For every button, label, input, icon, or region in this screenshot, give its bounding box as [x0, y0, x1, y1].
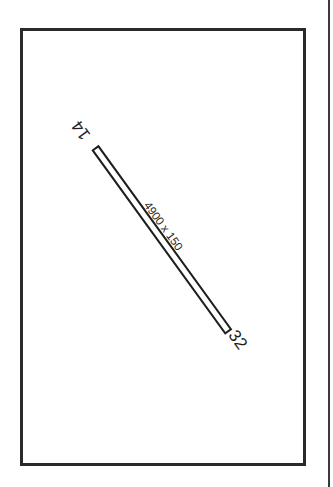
- page-edge-rule: [328, 0, 330, 487]
